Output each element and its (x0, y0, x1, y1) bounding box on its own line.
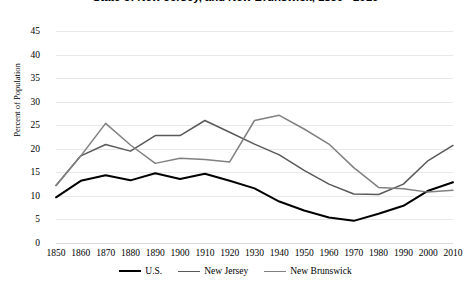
y-tick-label: 30 (14, 97, 40, 107)
gridline (56, 102, 453, 103)
x-tick-label: 2010 (433, 248, 471, 259)
y-tick-label: 45 (14, 26, 40, 36)
plot-area (0, 0, 471, 289)
legend-label: New Jersey (204, 266, 248, 276)
y-tick-label: 35 (14, 73, 40, 83)
y-tick-label: 10 (14, 191, 40, 201)
legend-item: New Brunswick (264, 266, 351, 276)
gridline (56, 78, 453, 79)
y-tick-label: 15 (14, 167, 40, 177)
series-line-new-brunswick (56, 115, 453, 192)
gridline (56, 31, 453, 32)
legend-label: U.S. (145, 266, 162, 276)
series-line-u-s (56, 173, 453, 221)
legend-item: U.S. (119, 266, 162, 276)
series-line-new-jersey (56, 121, 453, 195)
gridline (56, 125, 453, 126)
legend-swatch-line-icon (119, 270, 141, 272)
y-tick-label: 40 (14, 50, 40, 60)
y-tick-label: 0 (14, 238, 40, 248)
legend-swatch-line-icon (264, 271, 286, 272)
chart-title: State of New Jersey, and New Brunswick, … (0, 0, 471, 4)
gridline (56, 172, 453, 173)
gridline (56, 196, 453, 197)
gridline (56, 55, 453, 56)
y-tick-label: 20 (14, 144, 40, 154)
line-chart: State of New Jersey, and New Brunswick, … (0, 0, 471, 289)
legend-label: New Brunswick (290, 266, 351, 276)
gridline (56, 219, 453, 220)
y-tick-label: 5 (14, 214, 40, 224)
y-tick-label: 25 (14, 120, 40, 130)
chart-legend: U.S.New JerseyNew Brunswick (0, 266, 471, 276)
legend-swatch-line-icon (178, 271, 200, 272)
legend-item: New Jersey (178, 266, 248, 276)
gridline (56, 149, 453, 150)
gridline (56, 243, 453, 244)
